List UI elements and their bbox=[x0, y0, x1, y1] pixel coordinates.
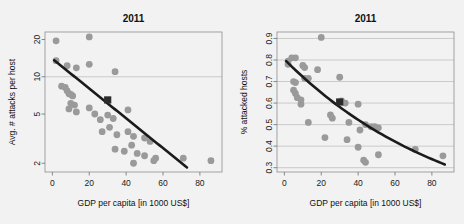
data-point bbox=[336, 74, 343, 81]
data-point bbox=[150, 157, 157, 164]
x-tick-label: 20 bbox=[85, 178, 95, 188]
y-axis-title: Avg. # attacks per host bbox=[7, 58, 17, 145]
data-point bbox=[292, 54, 299, 61]
data-point bbox=[375, 151, 382, 158]
data-point bbox=[91, 111, 98, 118]
x-tick-label: 20 bbox=[317, 178, 327, 188]
data-point bbox=[322, 134, 329, 141]
x-tick-label: 40 bbox=[121, 178, 131, 188]
y-tick-label: 0.8 bbox=[264, 54, 274, 66]
data-point bbox=[130, 133, 137, 140]
data-point bbox=[66, 105, 73, 112]
x-tick-label: 0 bbox=[50, 178, 55, 188]
data-point bbox=[292, 79, 299, 86]
y-tick-label: 5 bbox=[32, 111, 42, 116]
chart-title: 2011 bbox=[123, 13, 145, 24]
x-tick-label: 60 bbox=[158, 178, 168, 188]
data-point bbox=[69, 93, 76, 100]
x-axis-title: GDP per capita [in 1000 US$] bbox=[78, 198, 190, 208]
y-tick-label: 0.5 bbox=[264, 118, 274, 130]
scatter-plot-attacks-per-host: 2011020406080251020GDP per capita [in 10… bbox=[0, 0, 232, 224]
y-tick-label: 0.6 bbox=[264, 97, 274, 109]
figure-container: 2011020406080251020GDP per capita [in 10… bbox=[0, 0, 464, 224]
chart-panel-right: 20110204060800.30.40.50.60.70.80.9GDP pe… bbox=[232, 0, 464, 224]
data-point bbox=[346, 119, 353, 126]
data-point bbox=[114, 131, 121, 138]
highlight-marker[interactable] bbox=[336, 98, 343, 105]
chart-title: 2011 bbox=[355, 13, 377, 24]
data-point bbox=[121, 148, 128, 155]
data-point bbox=[329, 115, 336, 122]
y-tick-label: 2 bbox=[32, 161, 42, 166]
data-point bbox=[128, 142, 135, 149]
data-point bbox=[362, 159, 369, 166]
y-tick-label: 0.3 bbox=[264, 162, 274, 174]
x-axis-title: GDP per capita [in 1000 US$] bbox=[310, 198, 422, 208]
y-tick-label: 20 bbox=[32, 35, 42, 45]
data-point bbox=[112, 146, 119, 153]
data-point bbox=[86, 105, 93, 112]
data-point bbox=[53, 37, 60, 44]
y-tick-label: 0.4 bbox=[264, 140, 274, 152]
data-point bbox=[355, 144, 362, 151]
data-point bbox=[357, 127, 364, 134]
data-point bbox=[86, 61, 93, 68]
data-point bbox=[112, 68, 119, 75]
data-point bbox=[180, 155, 187, 162]
data-point bbox=[99, 128, 106, 135]
data-point bbox=[314, 66, 321, 73]
data-point bbox=[86, 33, 93, 40]
data-point bbox=[301, 64, 308, 71]
x-tick-label: 40 bbox=[353, 178, 363, 188]
highlight-marker[interactable] bbox=[104, 96, 111, 103]
data-point bbox=[344, 136, 351, 143]
data-point bbox=[208, 157, 215, 164]
data-point bbox=[141, 152, 148, 159]
y-tick-label: 10 bbox=[32, 72, 42, 82]
data-point bbox=[440, 152, 447, 159]
data-point bbox=[73, 109, 80, 116]
data-point bbox=[97, 116, 104, 123]
data-point bbox=[355, 101, 362, 108]
x-tick-label: 60 bbox=[390, 178, 400, 188]
data-point bbox=[106, 124, 113, 131]
data-point bbox=[130, 160, 137, 167]
data-point bbox=[71, 102, 78, 109]
y-tick-label: 0.9 bbox=[264, 32, 274, 44]
x-tick-label: 0 bbox=[282, 178, 287, 188]
data-point bbox=[125, 128, 132, 135]
scatter-plot-attacked-hosts: 20110204060800.30.40.50.60.70.80.9GDP pe… bbox=[232, 0, 464, 224]
data-point bbox=[125, 106, 132, 113]
data-point bbox=[305, 119, 312, 126]
y-axis-title: % attacked hosts bbox=[239, 70, 249, 135]
y-tick-label: 0.7 bbox=[264, 75, 274, 87]
data-point bbox=[110, 115, 117, 122]
x-tick-label: 80 bbox=[427, 178, 437, 188]
x-tick-label: 80 bbox=[195, 178, 205, 188]
data-point bbox=[134, 150, 141, 157]
chart-panel-left: 2011020406080251020GDP per capita [in 10… bbox=[0, 0, 232, 224]
data-point bbox=[73, 64, 80, 71]
data-point bbox=[298, 101, 305, 108]
data-point bbox=[318, 34, 325, 41]
